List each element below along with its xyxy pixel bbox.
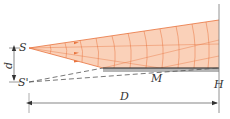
label-S-prime: S' (18, 76, 29, 89)
label-d: d (2, 62, 15, 69)
label-M: M (150, 72, 163, 85)
mirror-diagram: S S' d M H D (0, 0, 230, 119)
label-D: D (119, 90, 129, 103)
label-H: H (213, 78, 224, 91)
light-fan (29, 20, 219, 68)
label-S: S (19, 41, 27, 54)
